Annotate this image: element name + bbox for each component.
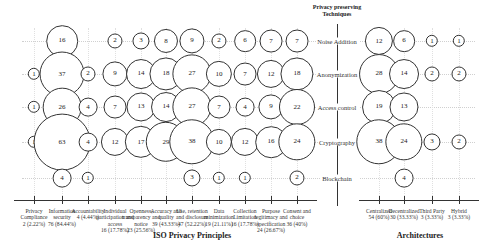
x-axis-tick: [141, 196, 142, 204]
category-count: 36 (40%): [277, 221, 317, 227]
data-bubble: 4: [395, 169, 414, 188]
x-axis-tick: [271, 196, 272, 204]
data-bubble: 1: [239, 172, 251, 184]
data-bubble: 10: [206, 61, 232, 87]
data-bubble: 8: [154, 29, 178, 53]
category-count: 3 (3.33%): [439, 214, 479, 220]
data-bubble: 2: [80, 66, 95, 81]
gridline-col: [459, 28, 460, 200]
data-bubble: 4: [79, 98, 98, 117]
data-bubble: 10: [206, 129, 232, 155]
data-bubble: 7: [104, 96, 127, 119]
x-axis-tick: [34, 196, 35, 204]
x-axis-tick: [459, 196, 460, 204]
data-bubble: 6: [393, 30, 415, 52]
x-axis-tick: [432, 196, 433, 204]
x-axis-tick: [115, 196, 116, 204]
data-bubble: 7: [234, 63, 257, 86]
data-bubble: 1: [28, 68, 40, 80]
data-bubble: 2: [424, 66, 439, 81]
data-bubble: 7: [286, 30, 309, 53]
technique-label: Access control: [317, 104, 357, 111]
data-bubble: 3: [423, 133, 440, 150]
data-bubble: 12: [365, 27, 393, 55]
technique-label: Noise Addition: [316, 38, 358, 45]
data-bubble: 2: [289, 170, 304, 185]
data-bubble: 3: [183, 169, 200, 186]
x-axis-tick: [245, 196, 246, 204]
x-axis-tick: [192, 196, 193, 204]
technique-label: Blockchain: [321, 175, 353, 182]
data-bubble: 1: [28, 101, 40, 113]
data-bubble: 14: [389, 59, 419, 89]
technique-label: Anonymization: [316, 71, 358, 78]
category-count: 24 (26.67%): [251, 227, 291, 233]
data-bubble: 2: [107, 33, 122, 48]
data-bubble: 2: [451, 134, 466, 149]
x-axis-title-architectures: Architectures: [397, 231, 443, 240]
x-axis-tick: [219, 196, 220, 204]
data-bubble: 9: [179, 28, 204, 53]
bubble-chart: 1623892677137291418271071218126471314277…: [0, 0, 486, 245]
data-bubble: 7: [208, 96, 231, 119]
data-bubble: 2: [451, 66, 466, 81]
data-bubble: 7: [260, 30, 283, 53]
data-bubble: 13: [389, 92, 418, 121]
x-axis-tick: [88, 196, 89, 204]
data-bubble: 18: [280, 57, 313, 90]
data-bubble: 24: [385, 123, 422, 160]
x-axis-tick: [166, 196, 167, 204]
x-axis-tick: [404, 196, 405, 204]
data-bubble: 1: [453, 35, 465, 47]
data-bubble: 1: [426, 35, 438, 47]
x-axis-tick: [62, 196, 63, 204]
technique-label: Cryptography: [318, 139, 356, 146]
data-bubble: 9: [102, 61, 127, 86]
data-bubble: 24: [278, 123, 315, 160]
x-axis-line: [359, 200, 479, 201]
x-axis-tick: [297, 196, 298, 204]
x-axis-tick: [379, 196, 380, 204]
data-bubble: 6: [234, 30, 256, 52]
gridline-col: [432, 28, 433, 200]
data-bubble: 3: [132, 32, 149, 49]
data-bubble: 22: [279, 89, 315, 125]
y-axis-title: Privacy preserving Techniques: [302, 4, 372, 18]
data-bubble: 1: [213, 172, 225, 184]
category-name: Consent and choice: [277, 208, 317, 221]
x-axis-category-label: Hybrid3 (3.33%): [439, 208, 479, 221]
data-bubble: 1: [82, 172, 94, 184]
gridline-row: [360, 178, 475, 179]
category-count: 76 (84.44%): [42, 221, 82, 227]
data-bubble: 2: [211, 33, 226, 48]
gridline-col: [34, 28, 35, 200]
x-axis-title-iso: ISO Privacy Principles: [153, 231, 231, 240]
data-bubble: 4: [79, 133, 98, 152]
x-axis-category-label: Consent and choice36 (40%): [277, 208, 317, 227]
data-bubble: 4: [236, 98, 255, 117]
data-bubble: 4: [53, 169, 72, 188]
